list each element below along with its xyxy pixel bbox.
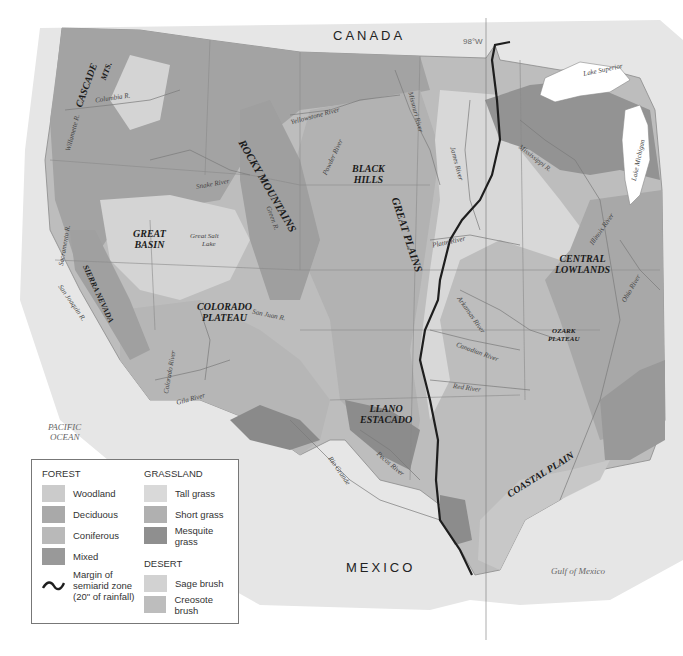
legend-label-sage-brush: Sage brush <box>175 578 224 589</box>
legend-label-mixed: Mixed <box>73 551 98 562</box>
ozark-plateau-line2: PLATEAU <box>548 335 580 343</box>
wavy-line-icon <box>42 580 65 592</box>
label-gulf-of-mexico: Gulf of Mexico <box>551 566 605 576</box>
legend-item-coniferous: Coniferous <box>42 527 134 544</box>
label-great-basin: GREAT BASIN <box>133 228 166 250</box>
pacific-line2: OCEAN <box>48 432 81 442</box>
swatch-tall-grass <box>144 485 167 502</box>
label-central-lowlands: CENTRAL LOWLANDS <box>555 253 610 275</box>
legend-item-short-grass: Short grass <box>144 506 238 523</box>
semiarid-line3: (20" of rainfall) <box>73 591 134 602</box>
great-basin-line1: GREAT <box>133 228 166 239</box>
map-legend: FOREST Woodland Deciduous Coniferous Mix… <box>31 459 239 624</box>
swatch-deciduous <box>42 506 65 523</box>
legend-label-creosote-brush: Creosote brush <box>174 594 238 616</box>
swatch-woodland <box>42 485 65 502</box>
legend-grassland-desert-column: GRASSLAND Tall grass Short grass Mesquit… <box>144 468 238 617</box>
swatch-mixed <box>42 548 65 565</box>
great-basin-line2: BASIN <box>133 239 166 250</box>
colorado-plateau-line1: COLORADO <box>197 301 252 312</box>
label-black-hills: BLACK HILLS <box>352 163 385 185</box>
legend-label-semiarid: Margin of semiarid zone (20" of rainfall… <box>73 569 134 602</box>
label-great-salt-lake-line1: Great Salt <box>190 232 219 240</box>
legend-forest-column: FOREST Woodland Deciduous Coniferous Mix… <box>42 468 134 602</box>
legend-item-sage-brush: Sage brush <box>144 575 238 592</box>
swatch-sage-brush <box>144 575 167 592</box>
central-lowlands-line1: CENTRAL <box>555 253 610 264</box>
black-hills-line2: HILLS <box>352 174 385 185</box>
ozark-plateau-line1: OZARK <box>548 327 580 335</box>
colorado-plateau-line2: PLATEAU <box>197 312 252 323</box>
label-pacific-ocean: PACIFIC OCEAN <box>48 422 81 442</box>
label-meridian-98w: 98°W <box>463 37 483 46</box>
black-hills-line1: BLACK <box>352 163 385 174</box>
legend-item-semiarid-margin: Margin of semiarid zone (20" of rainfall… <box>42 569 134 602</box>
legend-heading-grassland: GRASSLAND <box>144 468 238 479</box>
legend-label-mesquite-grass: Mesquite grass <box>175 525 238 547</box>
swatch-creosote-brush <box>144 596 166 613</box>
label-mexico: MEXICO <box>346 560 415 575</box>
legend-item-mesquite-grass: Mesquite grass <box>144 527 238 544</box>
legend-label-coniferous: Coniferous <box>73 530 119 541</box>
legend-label-deciduous: Deciduous <box>73 509 118 520</box>
legend-label-woodland: Woodland <box>73 488 116 499</box>
swatch-coniferous <box>42 527 65 544</box>
swatch-short-grass <box>144 506 167 523</box>
legend-item-mixed: Mixed <box>42 548 134 565</box>
label-canada: CANADA <box>333 28 405 43</box>
label-colorado-plateau: COLORADO PLATEAU <box>197 301 252 323</box>
label-great-salt-lake-line2: Lake <box>202 240 216 248</box>
legend-heading-desert: DESERT <box>144 558 238 569</box>
vegetation-map: CANADA MEXICO 98°W PACIFIC OCEAN Gulf of… <box>0 0 683 656</box>
label-ozark-plateau: OZARK PLATEAU <box>548 327 580 343</box>
pacific-line1: PACIFIC <box>48 422 81 432</box>
legend-item-tall-grass: Tall grass <box>144 485 238 502</box>
legend-item-deciduous: Deciduous <box>42 506 134 523</box>
llano-estacado-line2: ESTACADO <box>360 414 412 425</box>
label-llano-estacado: LLANO ESTACADO <box>360 403 412 425</box>
legend-label-tall-grass: Tall grass <box>175 488 215 499</box>
semiarid-line2: semiarid zone <box>73 580 134 591</box>
central-lowlands-line2: LOWLANDS <box>555 264 610 275</box>
legend-label-short-grass: Short grass <box>175 509 224 520</box>
semiarid-line1: Margin of <box>73 569 134 580</box>
legend-item-woodland: Woodland <box>42 485 134 502</box>
llano-estacado-line1: LLANO <box>360 403 412 414</box>
swatch-mesquite-grass <box>144 527 167 544</box>
legend-heading-forest: FOREST <box>42 468 134 479</box>
legend-item-creosote-brush: Creosote brush <box>144 596 238 613</box>
